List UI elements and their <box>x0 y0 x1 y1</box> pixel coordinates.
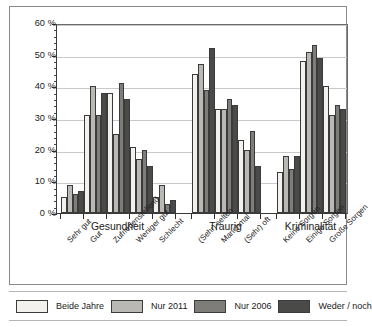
legend-label: Nur 2006 <box>234 301 271 311</box>
bar-group <box>277 25 300 213</box>
bar-group <box>323 25 346 213</box>
legend-swatch <box>111 300 143 313</box>
bar <box>255 166 261 214</box>
bar <box>78 191 84 213</box>
bar <box>101 93 107 213</box>
x-axis-tick <box>60 214 61 219</box>
y-axis-tick-label: 60 % <box>16 19 56 28</box>
bar <box>232 105 238 213</box>
y-axis-tick-label: 20 % <box>16 146 56 155</box>
x-axis-tick <box>191 214 192 219</box>
bar-group <box>107 25 130 213</box>
bar-group <box>192 25 215 213</box>
legend-item: Weder / noch <box>278 300 371 313</box>
legend-label: Beide Jahre <box>56 301 104 311</box>
y-axis-tick-label: 0 % <box>16 209 56 218</box>
plot-area <box>56 24 348 214</box>
chart-legend: Beide JahreNur 2011Nur 2006Weder / noch <box>9 291 347 321</box>
bar <box>209 48 215 213</box>
bar-group <box>215 25 238 213</box>
bar-group <box>61 25 84 213</box>
bar <box>170 200 176 213</box>
category-label: Gut <box>89 230 104 245</box>
bar-group <box>130 25 153 213</box>
bar <box>124 99 130 213</box>
bar <box>340 109 346 214</box>
y-axis-tick-label: 40 % <box>16 82 56 91</box>
y-axis-labels: 0 %10 %20 %30 %40 %50 %60 % <box>10 24 56 214</box>
legend-item: Beide Jahre <box>16 300 104 313</box>
legend-label: Nur 2011 <box>151 301 187 311</box>
bar <box>317 58 323 213</box>
legend-label: Weder / noch <box>318 301 371 311</box>
legend-swatch <box>278 300 310 313</box>
bar-group <box>300 25 323 213</box>
legend-swatch <box>194 300 226 313</box>
legend-swatch <box>16 300 48 313</box>
y-axis-tick-label: 50 % <box>16 51 56 60</box>
bar-group <box>84 25 107 213</box>
bar <box>294 156 300 213</box>
y-axis-tick-label: 30 % <box>16 114 56 123</box>
x-axis-tick <box>276 214 277 219</box>
x-axis-tick <box>106 214 107 219</box>
chart-frame: 0 %10 %20 %30 %40 %50 %60 % GesundheitTr… <box>9 6 347 285</box>
bar-group <box>153 25 176 213</box>
bar-group <box>238 25 261 213</box>
legend-item: Nur 2006 <box>194 300 271 313</box>
y-axis-tick-label: 10 % <box>16 177 56 186</box>
legend-item: Nur 2011 <box>111 300 187 313</box>
